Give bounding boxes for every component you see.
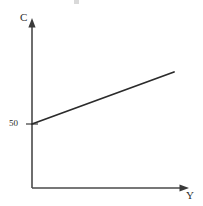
chart-canvas bbox=[0, 0, 203, 206]
scan-artifact bbox=[74, 0, 79, 4]
x-axis-label: Y bbox=[186, 190, 194, 201]
y-axis-label: C bbox=[20, 12, 27, 23]
consumption-function-line bbox=[32, 72, 174, 124]
y-intercept-label: 50 bbox=[9, 119, 18, 128]
consumption-function-figure: C Y 50 bbox=[0, 0, 203, 206]
y-axis-arrowhead bbox=[28, 18, 35, 28]
